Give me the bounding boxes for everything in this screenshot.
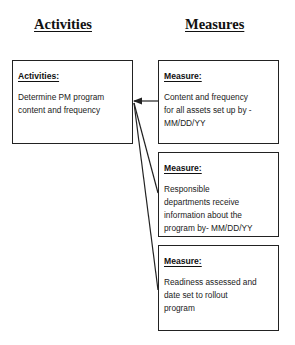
line-measure-3 [134, 103, 158, 290]
measure-text: Readiness assessed and date set to rollo… [164, 276, 273, 315]
line-measure-2 [134, 103, 158, 193]
measure-box-1: Measure: Content and frequency for all a… [158, 60, 279, 144]
measure-heading: Measure: [164, 256, 202, 266]
measure-text: Responsible departments receive informat… [164, 183, 273, 235]
measure-heading: Measure: [164, 71, 202, 81]
measure-heading: Measure: [164, 163, 202, 173]
measure-box-2: Measure: Responsible departments receive… [158, 152, 279, 237]
activity-box: Activities: Determine PM program content… [12, 60, 133, 144]
activity-heading: Activities: [18, 71, 59, 81]
measure-text: Content and frequency for all assets set… [164, 91, 273, 130]
activity-text: Determine PM program content and frequen… [18, 91, 127, 117]
measure-box-3: Measure: Readiness assessed and date set… [158, 245, 279, 331]
